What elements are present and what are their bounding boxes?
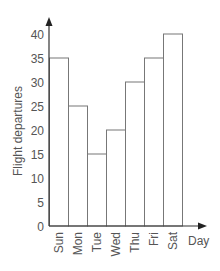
y-tick-label: 10	[31, 172, 45, 186]
x-axis-label: Day	[188, 234, 209, 248]
bar-sat	[164, 34, 183, 226]
bar-wed	[107, 130, 126, 226]
bar-thu	[126, 82, 145, 226]
y-axis-tick-labels: 0510152025303540	[31, 28, 45, 234]
y-tick-label: 20	[31, 124, 45, 138]
bar-chart: 0510152025303540 SunMonTueWedThuFriSat F…	[0, 0, 220, 271]
x-tick-label: Mon	[71, 232, 85, 255]
bars	[50, 34, 183, 226]
x-tick-label: Sat	[166, 231, 180, 250]
y-tick-label: 35	[31, 52, 45, 66]
bar-sun	[50, 58, 69, 226]
bar-fri	[145, 58, 164, 226]
bar-tue	[88, 154, 107, 226]
y-tick-label: 0	[37, 220, 44, 234]
x-axis-tick-labels: SunMonTueWedThuFriSat	[52, 231, 180, 256]
x-tick-label: Fri	[147, 232, 161, 246]
x-tick-label: Wed	[109, 232, 123, 256]
y-tick-label: 25	[31, 100, 45, 114]
x-axis-arrow-icon	[198, 223, 207, 230]
y-tick-label: 40	[31, 28, 45, 42]
y-axis-label: Flight departures	[11, 86, 25, 176]
x-tick-label: Thu	[128, 232, 142, 253]
y-tick-label: 15	[31, 148, 45, 162]
x-tick-label: Tue	[90, 232, 104, 253]
y-tick-label: 30	[31, 76, 45, 90]
x-tick-label: Sun	[52, 232, 66, 253]
bar-mon	[69, 106, 88, 226]
y-tick-label: 5	[37, 196, 44, 210]
y-axis-arrow-icon	[46, 17, 53, 26]
